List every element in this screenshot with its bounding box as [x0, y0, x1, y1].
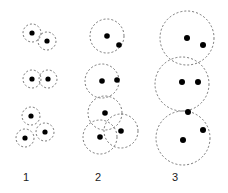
column-label-1: 1 — [23, 171, 29, 183]
column-label-3: 3 — [172, 171, 178, 183]
column-label-2: 2 — [95, 171, 101, 183]
scatter-disk-diagram: 123 — [0, 0, 228, 193]
data-point-dot — [102, 110, 108, 116]
figure-background — [0, 0, 228, 193]
data-point-dot — [22, 135, 27, 140]
data-point-dot — [29, 30, 34, 35]
data-point-dot — [118, 128, 124, 134]
data-point-dot — [28, 113, 33, 118]
data-point-dot — [99, 78, 105, 84]
data-point-dot — [179, 79, 185, 85]
data-point-dot — [195, 79, 201, 85]
data-point-dot — [29, 76, 34, 81]
data-point-dot — [180, 137, 186, 143]
data-point-dot — [104, 33, 110, 39]
figure-container: 123 — [0, 0, 228, 193]
data-point-dot — [116, 42, 122, 48]
data-point-dot — [45, 76, 50, 81]
data-point-dot — [185, 109, 191, 115]
data-point-dot — [97, 134, 103, 140]
data-point-dot — [184, 35, 190, 41]
data-point-dot — [200, 42, 206, 48]
data-point-dot — [114, 77, 120, 83]
data-point-dot — [42, 129, 47, 134]
data-point-dot — [44, 38, 49, 43]
data-point-dot — [200, 127, 206, 133]
